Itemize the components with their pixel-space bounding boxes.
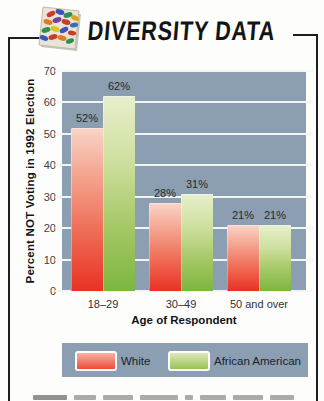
legend-label-white: White [121,355,150,367]
axis-tick [307,227,313,229]
diversity-data-figure: DIVERSITY DATA Percent NOT Voting in 199… [0,0,324,401]
gridline-60 [62,101,306,103]
legend-swatch-african-american [168,351,210,371]
axis-tick [307,164,313,166]
y-tick-label-50: 50 [18,128,56,140]
axis-tick [55,227,61,229]
y-tick-label-30: 30 [18,191,56,203]
axis-tick [55,259,61,261]
y-tick-label-60: 60 [18,96,56,108]
gridline-70 [62,70,306,72]
value-label-african-american-2: 31% [175,178,219,190]
y-axis-labels: 010203040506070 [18,71,56,291]
bar-white-1 [71,128,103,291]
x-axis-title: Age of Respondent [62,314,306,326]
legend-swatch-white [75,351,117,371]
axis-tick [307,133,313,135]
y-tick-label-20: 20 [18,222,56,234]
axis-tick [307,70,313,72]
axis-tick [307,259,313,261]
axis-tick [55,290,61,292]
x-tick-label-2: 30–49 [136,298,226,310]
axis-tick [55,101,61,103]
bar-white-2 [149,203,181,291]
frame-left-line [8,37,10,401]
cropped-caption-fragment [33,395,303,401]
legend-label-african-american: African American [214,355,301,367]
axis-tick [55,164,61,166]
axis-tick [55,133,61,135]
y-tick-label-0: 0 [18,285,56,297]
axis-tick [55,70,61,72]
value-label-african-american-3: 21% [253,209,297,221]
frame-right-line [316,34,318,401]
axis-tick [307,290,313,292]
bar-african-american-2 [181,194,213,291]
x-tick-label-3: 50 and over [214,298,304,310]
value-label-african-american-1: 62% [97,80,141,92]
plot-area: 52%28%21%62%31%21% [62,71,306,291]
axis-tick [55,196,61,198]
axis-tick [307,196,313,198]
bar-white-3 [227,225,259,291]
page-title: DIVERSITY DATA [86,16,276,47]
x-axis-labels: 18–2930–4950 and over [62,298,306,312]
legend: White African American [62,343,308,377]
mosaic-tiles-icon [36,3,82,51]
y-tick-label-70: 70 [18,65,56,77]
frame-right-corner [293,34,318,36]
y-tick-label-40: 40 [18,159,56,171]
y-tick-label-10: 10 [18,254,56,266]
axis-tick [307,101,313,103]
x-tick-label-1: 18–29 [58,298,148,310]
bar-african-american-1 [103,96,135,291]
bar-african-american-3 [259,225,291,291]
